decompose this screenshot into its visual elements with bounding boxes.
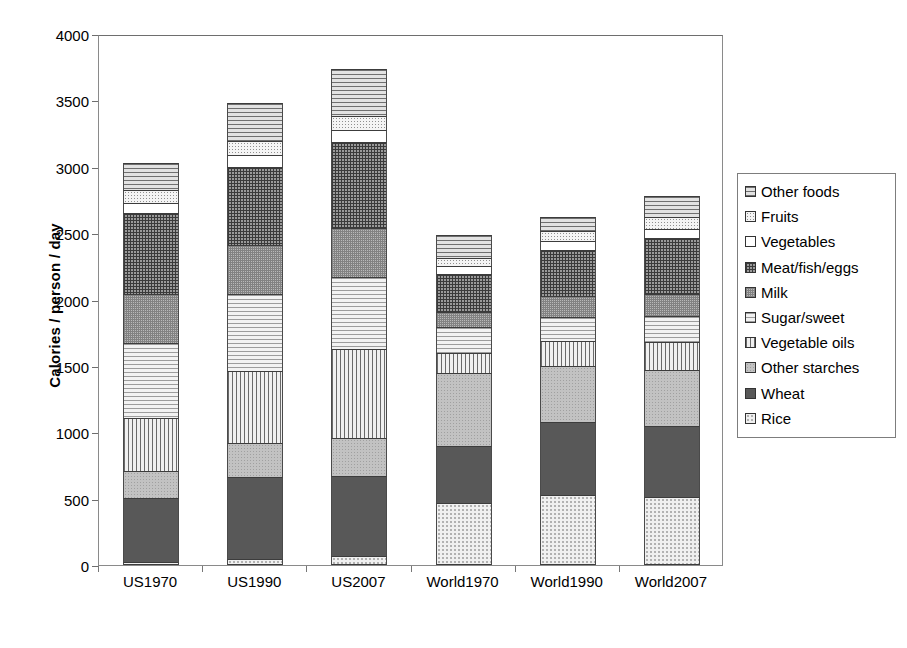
bar-segment[interactable]	[644, 229, 700, 239]
bar-segment[interactable]	[540, 366, 596, 422]
y-axis-tick-mark	[92, 500, 98, 501]
bar-segment[interactable]	[436, 235, 492, 259]
bar-segment[interactable]	[227, 477, 283, 559]
stacked-bar[interactable]	[123, 163, 179, 565]
bar-segment[interactable]	[644, 294, 700, 316]
chart-legend[interactable]: Other foodsFruitsVegetablesMeat/fish/egg…	[737, 173, 896, 438]
legend-item[interactable]: Vegetables	[745, 229, 891, 254]
legend-item[interactable]: Milk	[745, 280, 891, 305]
bar-segment[interactable]	[331, 349, 387, 437]
bar-segment[interactable]	[331, 476, 387, 556]
bar-segment[interactable]	[436, 274, 492, 312]
bar-segment[interactable]	[540, 250, 596, 296]
legend-item-label: Meat/fish/eggs	[761, 260, 859, 275]
bar-segment[interactable]	[227, 294, 283, 370]
bar-segment[interactable]	[436, 258, 492, 266]
legend-swatch-icon	[745, 362, 756, 373]
legend-swatch-icon	[745, 287, 756, 298]
bar-segment[interactable]	[644, 217, 700, 228]
bar-segment[interactable]	[436, 312, 492, 328]
bar-segment[interactable]	[540, 495, 596, 565]
y-axis-tick-mark	[92, 234, 98, 235]
y-axis-tick-mark	[92, 433, 98, 434]
bar-segment[interactable]	[227, 245, 283, 294]
bar-segment[interactable]	[644, 238, 700, 294]
x-axis-tick-mark	[411, 566, 412, 572]
bar-segment[interactable]	[227, 155, 283, 167]
legend-item[interactable]: Meat/fish/eggs	[745, 255, 891, 280]
bar-segment[interactable]	[331, 142, 387, 228]
legend-item-label: Other foods	[761, 184, 839, 199]
legend-item[interactable]: Other starches	[745, 355, 891, 380]
legend-item[interactable]: Fruits	[745, 204, 891, 229]
bar-segment[interactable]	[123, 471, 179, 498]
bar-segment[interactable]	[436, 266, 492, 273]
bar-segment[interactable]	[436, 446, 492, 504]
bar-segment[interactable]	[540, 231, 596, 241]
x-axis-tick-mark	[202, 566, 203, 572]
bar-segment[interactable]	[540, 296, 596, 317]
stacked-bar[interactable]	[227, 103, 283, 565]
bar-segment[interactable]	[540, 217, 596, 231]
bar-segment[interactable]	[540, 317, 596, 342]
bar-segment[interactable]	[123, 294, 179, 343]
stacked-bar[interactable]	[540, 217, 596, 565]
bar-segment[interactable]	[331, 228, 387, 277]
bar-segment[interactable]	[436, 503, 492, 565]
bar-segment[interactable]	[227, 559, 283, 565]
bar-segment[interactable]	[227, 141, 283, 155]
bar-segment[interactable]	[644, 497, 700, 565]
legend-item-label: Sugar/sweet	[761, 310, 844, 325]
bar-segment[interactable]	[227, 443, 283, 478]
x-axis-tick-mark	[98, 566, 99, 572]
bar-segment[interactable]	[123, 203, 179, 214]
legend-swatch-icon	[745, 262, 756, 273]
bar-segment[interactable]	[227, 371, 283, 443]
bar-segment[interactable]	[227, 103, 283, 141]
legend-swatch-icon	[745, 186, 756, 197]
bar-segment[interactable]	[123, 213, 179, 294]
legend-item-label: Other starches	[761, 360, 859, 375]
bar-segment[interactable]	[644, 196, 700, 217]
bar-segment[interactable]	[227, 167, 283, 245]
bar-segment[interactable]	[540, 341, 596, 366]
legend-item[interactable]: Sugar/sweet	[745, 305, 891, 330]
bar-segment[interactable]	[331, 438, 387, 476]
bar-segment[interactable]	[436, 373, 492, 445]
bar-segment[interactable]	[123, 343, 179, 418]
bar-segment[interactable]	[644, 370, 700, 426]
x-axis-label: World2007	[596, 573, 746, 590]
legend-item[interactable]: Other foods	[745, 179, 891, 204]
stacked-bar[interactable]	[436, 235, 492, 565]
x-axis-tick-mark	[306, 566, 307, 572]
bar-segment[interactable]	[540, 422, 596, 494]
bar-segment[interactable]	[123, 418, 179, 470]
stacked-bar[interactable]	[331, 69, 387, 565]
bar-segment[interactable]	[540, 241, 596, 250]
stacked-bar[interactable]	[644, 196, 700, 565]
bar-segment[interactable]	[331, 116, 387, 130]
legend-item-label: Milk	[761, 285, 788, 300]
legend-item[interactable]: Wheat	[745, 381, 891, 406]
bar-segment[interactable]	[123, 562, 179, 565]
bar-segment[interactable]	[644, 342, 700, 370]
bar-segment[interactable]	[436, 327, 492, 353]
legend-item[interactable]: Rice	[745, 406, 891, 431]
chart-root: Calories / person / day 4000350030002500…	[0, 0, 907, 648]
bar-segment[interactable]	[644, 316, 700, 342]
legend-item-label: Vegetables	[761, 234, 835, 249]
bar-segment[interactable]	[331, 69, 387, 115]
bar-segment[interactable]	[331, 556, 387, 565]
x-axis-tick-mark	[515, 566, 516, 572]
bar-segment[interactable]	[123, 163, 179, 190]
bar-segment[interactable]	[436, 353, 492, 373]
bar-segment[interactable]	[123, 190, 179, 203]
legend-swatch-icon	[745, 211, 756, 222]
bar-segment[interactable]	[123, 498, 179, 562]
bar-segment[interactable]	[331, 130, 387, 143]
bar-segment[interactable]	[644, 426, 700, 497]
y-axis-tick-mark	[92, 168, 98, 169]
bar-segment[interactable]	[331, 277, 387, 349]
plot-inner	[99, 36, 722, 565]
legend-item[interactable]: Vegetable oils	[745, 330, 891, 355]
